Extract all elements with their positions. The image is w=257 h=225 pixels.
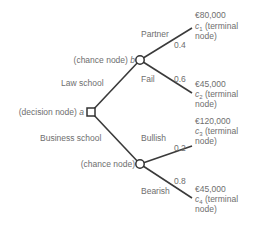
terminal-node-text: node) [195, 204, 217, 214]
terminal-node-c3: €120,000 c3 (terminal node) [195, 116, 238, 146]
probability-bullish: 0.2 [174, 143, 186, 153]
decision-node [87, 108, 95, 116]
outcome-label-bullish: Bullish [141, 133, 166, 143]
terminal-value: €45,000 [195, 79, 226, 89]
chance-node-b [136, 56, 144, 64]
terminal-value: €45,000 [195, 184, 226, 194]
outcome-label-partner: Partner [141, 29, 169, 39]
decision-tree: (decision node) a (chance node) b (chanc… [0, 0, 257, 225]
decision-node-label: (decision node) a [19, 107, 85, 117]
branch-label-business-school: Business school [40, 133, 102, 143]
terminal-value: €120,000 [195, 116, 231, 126]
probability-fail: 0.6 [174, 74, 186, 84]
terminal-node-text: node) [195, 136, 217, 146]
terminal-node-c2: €45,000 c2 (terminal node) [195, 79, 238, 109]
branch-label-law-school: Law school [61, 78, 104, 88]
terminal-node-text: node) [195, 31, 217, 41]
chance-node-2 [136, 160, 144, 168]
terminal-node-text: node) [195, 99, 217, 109]
probability-partner: 0.4 [174, 40, 186, 50]
outcome-label-bearish: Bearish [141, 186, 170, 196]
terminal-node-c1: €80,000 c1 (terminal node) [195, 10, 238, 41]
outcome-label-fail: Fail [141, 74, 155, 84]
chance-node-2-label: (chance node) [81, 159, 136, 169]
terminal-node-c4: €45,000 c4 (terminal node) [195, 184, 238, 214]
probability-bearish: 0.8 [174, 176, 186, 186]
terminal-value: €80,000 [195, 10, 226, 20]
chance-node-b-label: (chance node) b [74, 55, 136, 65]
